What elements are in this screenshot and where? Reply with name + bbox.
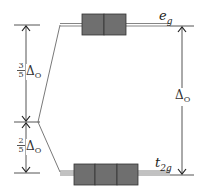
connector-to-t2g (38, 122, 60, 172)
t2g-orbital-2 (95, 164, 117, 185)
t2g-orbital-1 (74, 164, 95, 185)
connector-to-eg (38, 25, 60, 122)
eg-label: eg (159, 8, 172, 26)
lower-fraction: 25 (17, 137, 25, 154)
t2g-orbital-3 (117, 164, 138, 185)
t2g-label: t2g (155, 155, 172, 173)
eg-orbital-1 (82, 14, 104, 35)
eg-orbital-2 (104, 14, 126, 35)
upper-delta-label: ΔO (26, 64, 41, 80)
total-delta-label: ΔO (175, 88, 190, 104)
lower-delta-label: ΔO (26, 139, 41, 155)
upper-fraction: 35 (17, 62, 25, 79)
